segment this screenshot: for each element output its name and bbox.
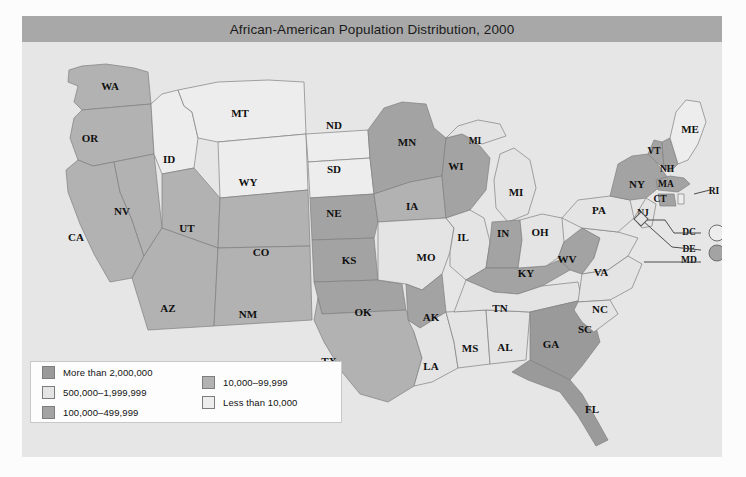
state-label-wv: WV — [558, 253, 577, 265]
legend-label: Less than 10,000 — [223, 397, 298, 408]
state-label-nc: NC — [592, 303, 608, 315]
state-ri[interactable] — [678, 194, 684, 204]
legend-swatch-10000-99999 — [202, 376, 215, 389]
map-legend: More than 2,000,000 500,000–1,999,999 10… — [30, 361, 342, 423]
state-nd[interactable] — [306, 130, 370, 162]
state-label-ok: OK — [354, 306, 372, 318]
legend-label: 100,000–499,999 — [63, 407, 138, 418]
legend-item: 500,000–1,999,999 — [42, 386, 196, 399]
legend-item: More than 2,000,000 — [42, 366, 196, 379]
legend-column-1: More than 2,000,000 500,000–1,999,999 10… — [31, 362, 196, 422]
state-wi[interactable] — [442, 134, 490, 218]
state-label-ct: CT — [653, 194, 667, 204]
state-wy[interactable] — [218, 134, 308, 198]
state-label-nv: NV — [114, 205, 130, 217]
state-label-mi-up: MI — [469, 136, 482, 146]
state-label-fl: FL — [585, 403, 599, 415]
state-al[interactable] — [486, 310, 530, 364]
state-label-il: IL — [457, 231, 469, 243]
state-label-la: LA — [423, 360, 438, 372]
state-label-co: CO — [253, 246, 270, 258]
state-label-wa: WA — [101, 80, 119, 92]
state-label-ia: IA — [406, 200, 418, 212]
legend-label: More than 2,000,000 — [63, 367, 153, 378]
inset-marker-de-md[interactable] — [709, 245, 722, 261]
ri-leader-line — [694, 190, 710, 194]
state-label-ny: NY — [629, 178, 645, 190]
state-label-nm: NM — [239, 308, 258, 320]
state-label-md: MD — [681, 255, 697, 265]
state-label-tn: TN — [492, 302, 507, 314]
legend-swatch-more-than-2000000 — [42, 366, 55, 379]
state-label-dc: DC — [682, 227, 696, 237]
legend-column-2: 10,000–99,999 Less than 10,000 — [196, 362, 341, 422]
legend-item: 10,000–99,999 — [202, 376, 341, 389]
state-label-ca: CA — [68, 231, 84, 243]
state-label-ms: MS — [462, 342, 479, 354]
legend-swatch-500000-1999999 — [42, 386, 55, 399]
map-figure: African-American Population Distribution… — [22, 16, 722, 457]
state-label-or: OR — [82, 132, 100, 144]
legend-item: 100,000–499,999 — [42, 406, 196, 419]
legend-label: 500,000–1,999,999 — [63, 387, 147, 398]
state-label-ma: MA — [658, 179, 674, 189]
state-label-mi: MI — [509, 186, 524, 198]
state-label-al: AL — [497, 341, 512, 353]
state-label-nd: ND — [326, 119, 342, 131]
state-label-id: ID — [163, 153, 175, 165]
state-label-pa: PA — [592, 204, 606, 216]
state-label-vt: VT — [647, 146, 661, 156]
state-co[interactable] — [218, 190, 310, 248]
state-label-ne: NE — [326, 207, 341, 219]
state-label-ak: AK — [423, 311, 440, 323]
state-label-mo: MO — [417, 251, 436, 263]
state-label-sd: SD — [327, 163, 341, 175]
state-label-mt: MT — [231, 107, 249, 119]
legend-item: Less than 10,000 — [202, 396, 341, 409]
state-label-ga: GA — [543, 338, 560, 350]
legend-label: 10,000–99,999 — [223, 377, 288, 388]
state-label-ky: KY — [518, 267, 535, 279]
legend-swatch-less-than-10000 — [202, 396, 215, 409]
state-label-mn: MN — [398, 136, 416, 148]
legend-swatch-100000-499999 — [42, 406, 55, 419]
state-label-nh: NH — [660, 164, 675, 174]
state-label-ut: UT — [179, 222, 195, 234]
state-label-sc: SC — [578, 323, 592, 335]
inset-marker-dc[interactable] — [709, 225, 722, 241]
state-label-va: VA — [594, 266, 609, 278]
state-ne[interactable] — [310, 194, 378, 240]
state-label-me: ME — [681, 123, 699, 135]
state-label-wi: WI — [448, 160, 463, 172]
state-label-in: IN — [497, 227, 509, 239]
state-label-ri: RI — [709, 186, 720, 196]
map-title-bar: African-American Population Distribution… — [22, 16, 722, 42]
state-label-az: AZ — [160, 302, 175, 314]
page-title: African-American Population Distribution… — [230, 22, 515, 37]
state-label-ks: KS — [342, 254, 357, 266]
state-label-oh: OH — [531, 226, 549, 238]
state-label-wy: WY — [239, 176, 258, 188]
state-nm[interactable] — [214, 246, 312, 326]
